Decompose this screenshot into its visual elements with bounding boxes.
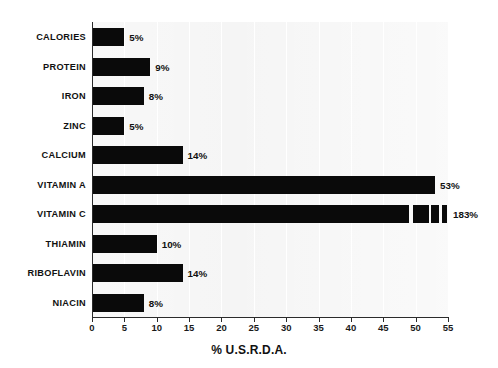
bar-row bbox=[92, 264, 448, 282]
bar-row bbox=[92, 176, 448, 194]
x-tick-label: 35 bbox=[313, 322, 324, 333]
bar-row bbox=[92, 117, 448, 135]
bar-chart: CALORIESPROTEINIRONZINCCALCIUMVITAMIN AV… bbox=[0, 0, 498, 368]
bar-value-label: 8% bbox=[149, 91, 163, 102]
x-tick-label: 20 bbox=[216, 322, 227, 333]
x-axis-line bbox=[92, 317, 449, 318]
bar-value-label: 10% bbox=[162, 238, 182, 249]
bar-row bbox=[92, 235, 448, 253]
category-label-protein: PROTEIN bbox=[0, 62, 86, 72]
bar-overflow-segment-1 bbox=[413, 205, 429, 223]
category-label-zinc: ZINC bbox=[0, 121, 86, 131]
bar-value-label: 14% bbox=[188, 150, 208, 161]
bar-value-label: 53% bbox=[440, 179, 460, 190]
bar bbox=[92, 28, 124, 46]
bar bbox=[92, 235, 157, 253]
category-label-iron: IRON bbox=[0, 91, 86, 101]
category-label-vitamin-a: VITAMIN A bbox=[0, 180, 86, 190]
category-label-riboflavin: RIBOFLAVIN bbox=[0, 268, 86, 278]
x-tick-label: 45 bbox=[378, 322, 389, 333]
bar-overflow-segment-2 bbox=[431, 205, 439, 223]
bar bbox=[92, 87, 144, 105]
x-tick-label: 25 bbox=[249, 322, 260, 333]
x-tick-label: 40 bbox=[346, 322, 357, 333]
bar-value-label: 9% bbox=[155, 61, 169, 72]
bar-value-label: 8% bbox=[149, 297, 163, 308]
category-label-calcium: CALCIUM bbox=[0, 150, 86, 160]
x-tick-label: 30 bbox=[281, 322, 292, 333]
bar-value-label: 14% bbox=[188, 268, 208, 279]
bar-row bbox=[92, 87, 448, 105]
bar-row bbox=[92, 58, 448, 76]
x-tick-label: 5 bbox=[122, 322, 127, 333]
bar-row bbox=[92, 146, 448, 164]
bar bbox=[92, 294, 144, 312]
x-tick-label: 0 bbox=[89, 322, 94, 333]
bar bbox=[92, 117, 124, 135]
bar bbox=[92, 146, 183, 164]
bar bbox=[92, 205, 409, 223]
gridline-55 bbox=[448, 22, 449, 317]
bar-value-label: 183% bbox=[453, 209, 478, 220]
bar bbox=[92, 176, 435, 194]
bar-value-label: 5% bbox=[129, 120, 143, 131]
bar-row bbox=[92, 294, 448, 312]
plot-area bbox=[92, 22, 448, 317]
x-tick-label: 10 bbox=[151, 322, 162, 333]
bar bbox=[92, 58, 150, 76]
y-axis-line bbox=[92, 22, 93, 318]
x-tick-label: 50 bbox=[410, 322, 421, 333]
category-label-calories: CALORIES bbox=[0, 32, 86, 42]
category-label-vitamin-c: VITAMIN C bbox=[0, 209, 86, 219]
x-tick-label: 15 bbox=[184, 322, 195, 333]
x-tick-label: 55 bbox=[443, 322, 454, 333]
category-label-niacin: NIACIN bbox=[0, 298, 86, 308]
bar bbox=[92, 264, 183, 282]
bar-overflow-segment-3 bbox=[442, 205, 447, 223]
category-label-thiamin: THIAMIN bbox=[0, 239, 86, 249]
bar-value-label: 5% bbox=[129, 32, 143, 43]
x-axis-title: % U.S.R.D.A. bbox=[0, 343, 498, 357]
bar-row bbox=[92, 205, 448, 223]
bar-row bbox=[92, 28, 448, 46]
